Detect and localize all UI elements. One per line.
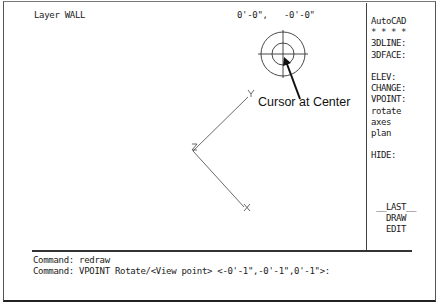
command-history-line: Command: redraw — [33, 255, 110, 265]
menu-item-elev[interactable]: ELEV: — [371, 72, 406, 83]
axis-tripod-icon — [192, 90, 254, 211]
menu-item-rotate[interactable]: rotate — [371, 106, 406, 117]
menu-item-hide[interactable]: HIDE: — [371, 150, 406, 161]
menu-item-3dface[interactable]: 3DFACE: — [371, 50, 406, 61]
menu-item-draw[interactable]: DRAW — [368, 213, 424, 224]
menu-blank — [371, 139, 406, 150]
menu-item-change[interactable]: CHANGE: — [371, 83, 406, 94]
menu-item-autocad[interactable]: AutoCAD — [371, 16, 406, 27]
screen-menu: AutoCAD * * * * 3DLINE: 3DFACE: ELEV: CH… — [371, 16, 406, 162]
menu-item-plan[interactable]: plan — [371, 128, 406, 139]
screen-menu-bottom: __LAST__ DRAW EDIT — [368, 202, 424, 235]
menu-item-axes[interactable]: axes — [371, 117, 406, 128]
compass-globe-icon — [258, 30, 308, 78]
command-prompt-line[interactable]: Command: VPOINT Rotate/<View point> <-0'… — [33, 266, 330, 276]
menu-item-edit[interactable]: EDIT — [368, 224, 424, 235]
menu-blank — [371, 61, 406, 72]
menu-item-vpoint[interactable]: VPOINT: — [371, 94, 406, 105]
menu-item-separator[interactable]: * * * * — [371, 27, 406, 38]
cursor-annotation: Cursor at Center — [258, 95, 350, 109]
menu-item-last[interactable]: __LAST__ — [368, 202, 424, 213]
pointer-arrow-icon — [283, 57, 300, 99]
menu-item-3dline[interactable]: 3DLINE: — [371, 38, 406, 49]
